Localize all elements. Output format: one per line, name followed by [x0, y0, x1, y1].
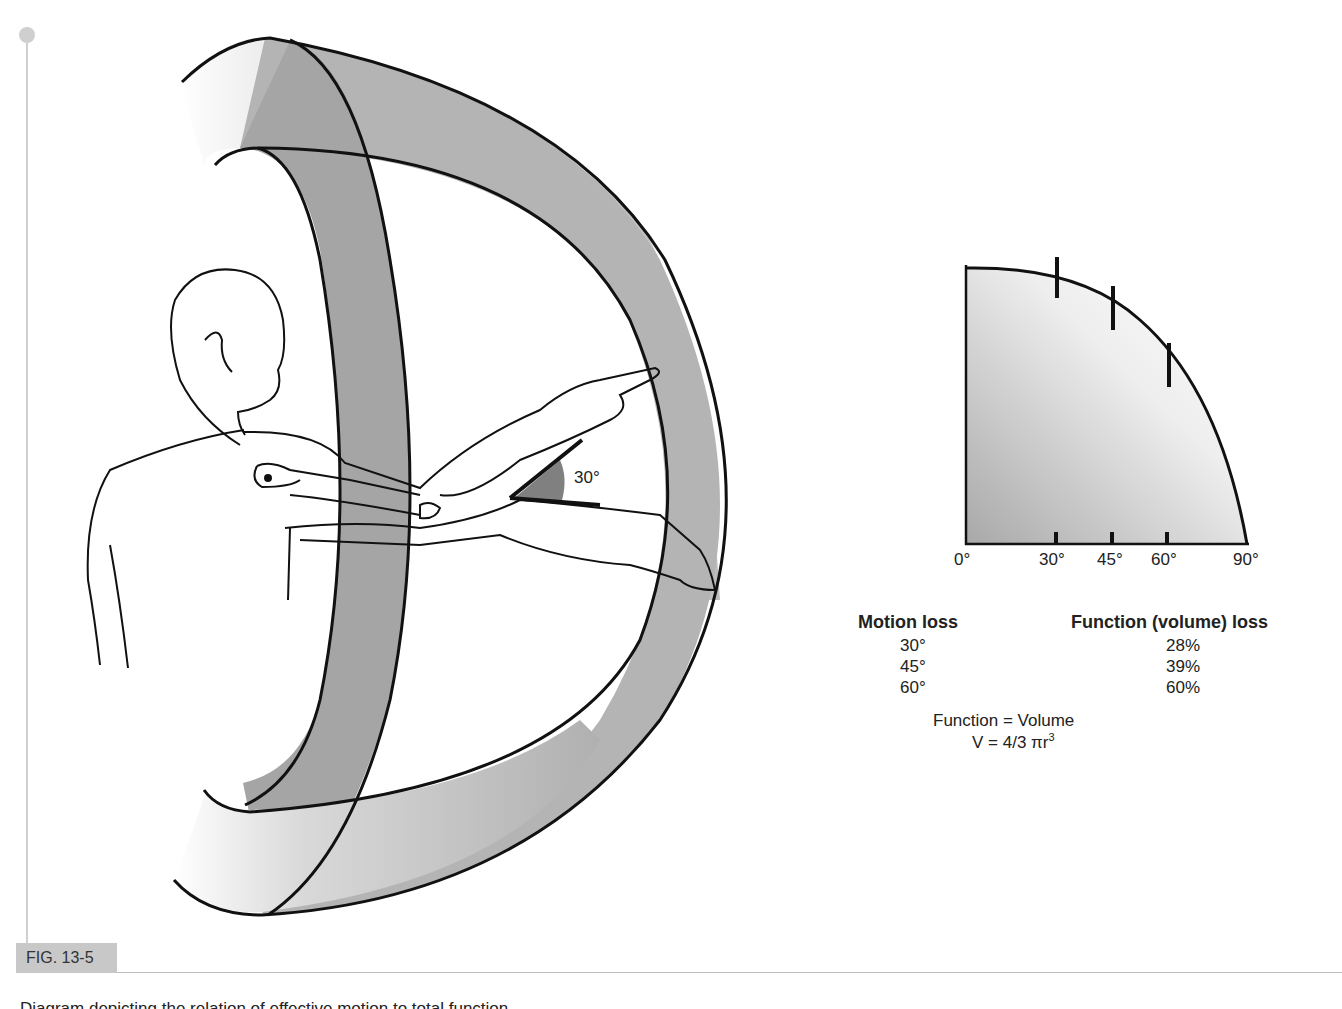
motion-sphere: [174, 38, 726, 915]
formula-base: V = 4/3 πr: [972, 733, 1048, 752]
function-value: 60%: [1166, 678, 1200, 698]
figure-illustration: [0, 0, 1342, 1009]
quarter-circle-chart: [965, 257, 1249, 545]
function-value: 39%: [1166, 657, 1200, 677]
header-function-loss: Function (volume) loss: [1071, 612, 1268, 633]
margin-marker: [19, 27, 35, 972]
tick-label-60: 60°: [1151, 550, 1177, 570]
formula-line-2: V = 4/3 πr3: [972, 731, 1055, 753]
tick-label-30: 30°: [1039, 550, 1065, 570]
angle-label: 30°: [574, 468, 600, 488]
figure-caption: Diagram depicting the relation of effect…: [20, 996, 508, 1009]
tick-label-90: 90°: [1233, 550, 1259, 570]
formula-exponent: 3: [1048, 731, 1054, 743]
function-value: 28%: [1166, 636, 1200, 656]
motion-value: 30°: [900, 636, 926, 656]
motion-value: 45°: [900, 657, 926, 677]
figure-label: FIG. 13-5: [16, 943, 117, 973]
header-motion-loss: Motion loss: [858, 612, 958, 633]
motion-value: 60°: [900, 678, 926, 698]
figure-divider: [117, 972, 1342, 973]
tick-label-45: 45°: [1097, 550, 1123, 570]
formula-line-1: Function = Volume: [933, 711, 1074, 731]
tick-label-0: 0°: [954, 550, 970, 570]
